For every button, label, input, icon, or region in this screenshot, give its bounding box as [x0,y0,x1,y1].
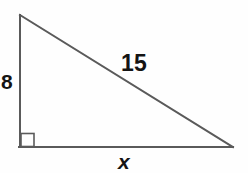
horizontal-leg-label: x [118,151,130,172]
triangle-shape [19,15,233,147]
right-angle-square-icon [21,134,34,147]
right-triangle-figure: 8 15 x [0,0,248,173]
vertical-leg-label: 8 [1,71,13,92]
hypotenuse-label: 15 [121,52,147,75]
hypotenuse-line [20,15,233,147]
triangle-diagram-svg [0,0,248,173]
